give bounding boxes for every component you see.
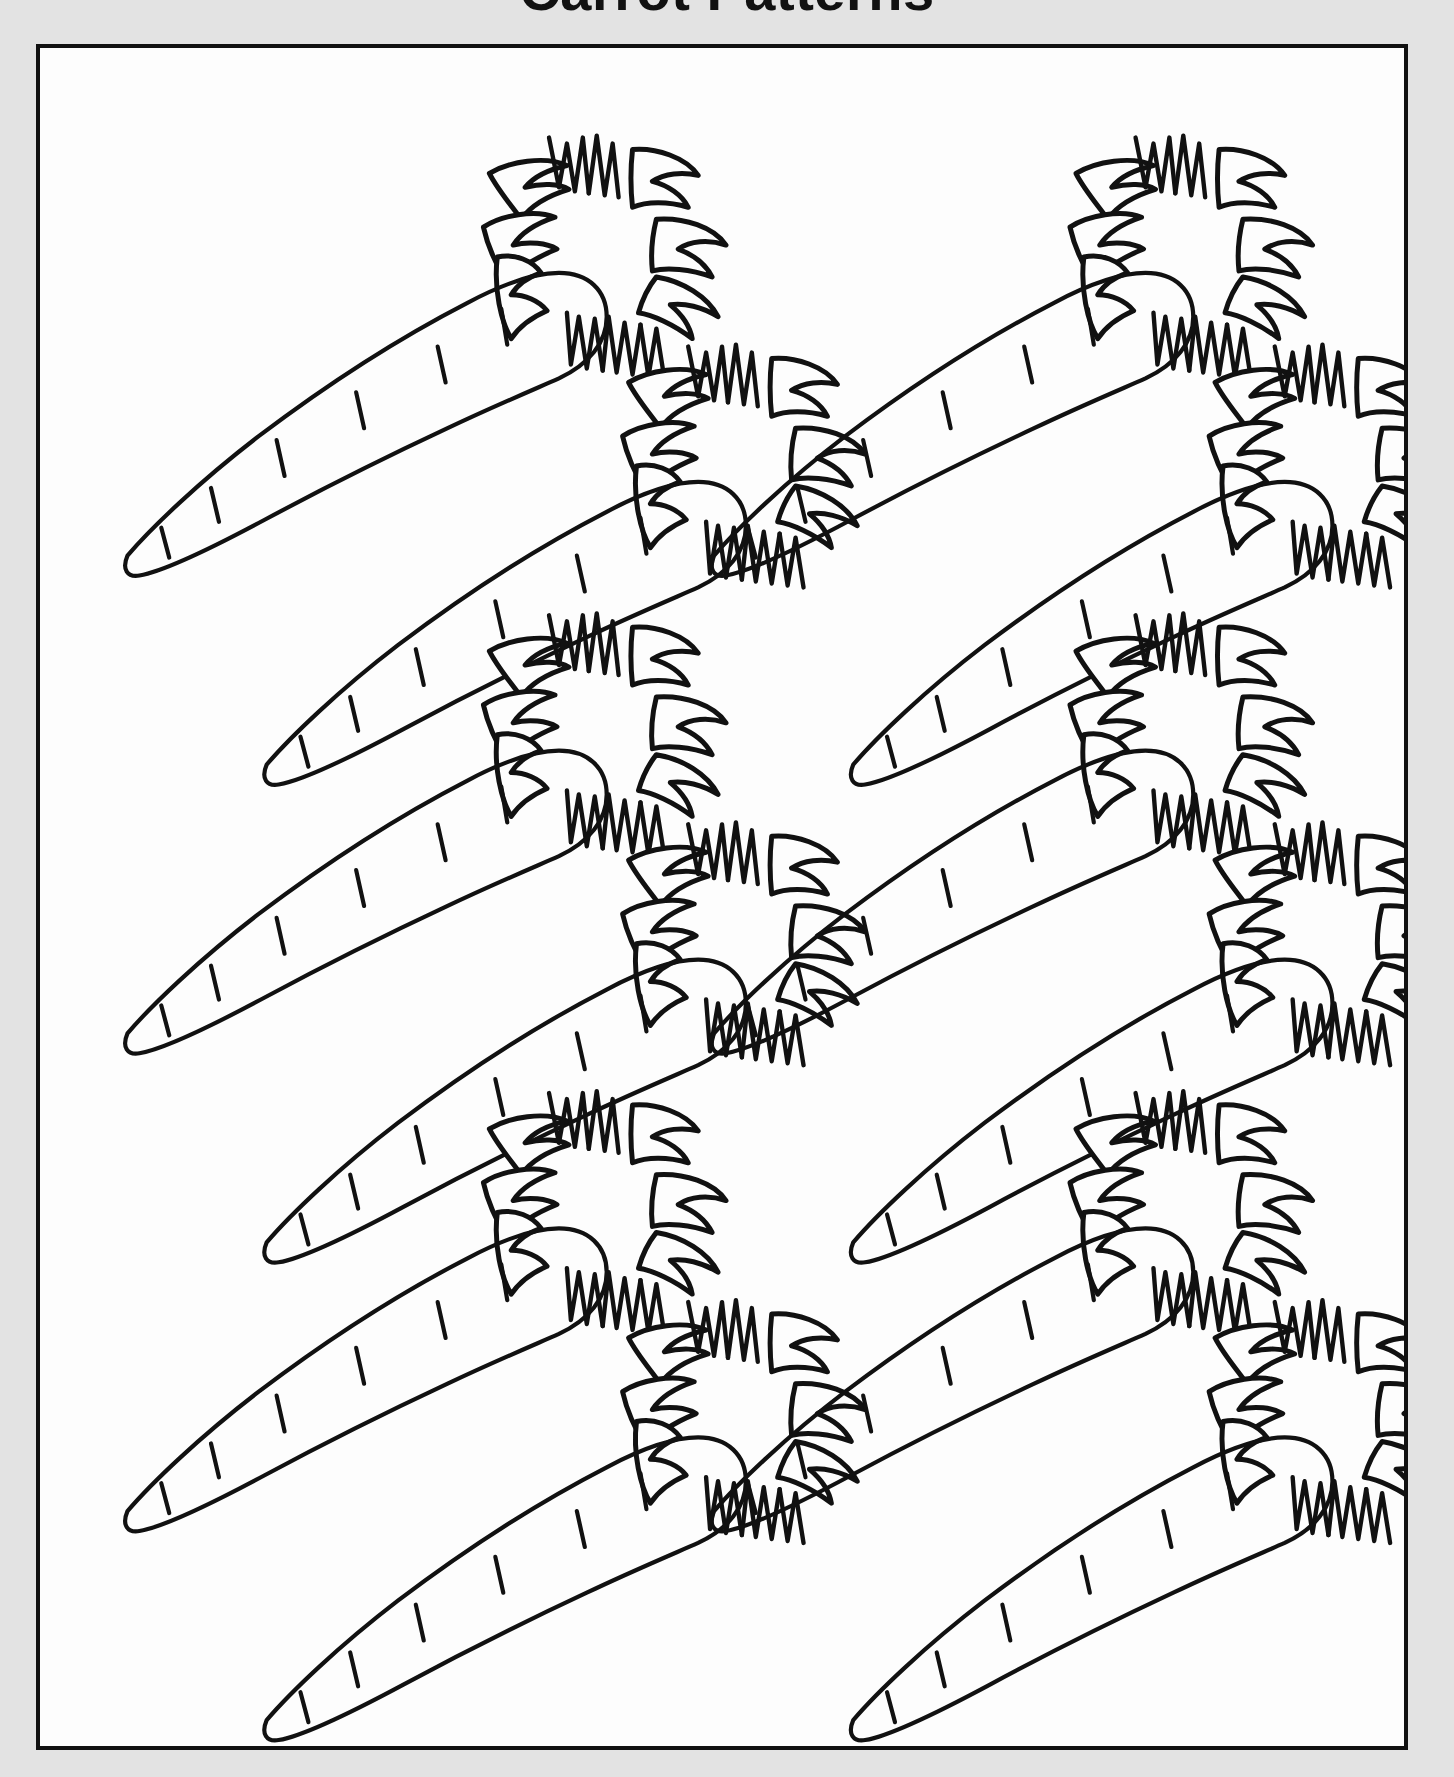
pattern-sheet <box>36 44 1408 1750</box>
page-title: Carrot Patterns <box>0 0 1454 23</box>
carrot-4 <box>264 822 865 1262</box>
carrot-12 <box>851 1300 1404 1740</box>
carrot-pattern-canvas <box>40 48 1404 1746</box>
carrot-6 <box>264 1300 865 1740</box>
carrot-2 <box>264 345 865 785</box>
carrot-8 <box>851 345 1404 785</box>
page-root: Carrot Patterns <box>0 0 1454 1777</box>
carrot-10 <box>851 822 1404 1262</box>
